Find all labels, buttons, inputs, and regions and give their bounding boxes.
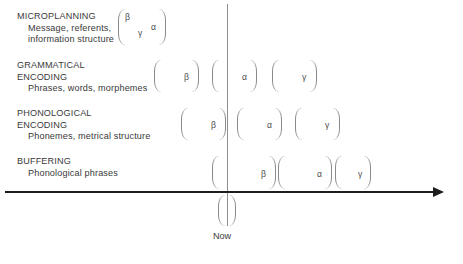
phonological-glyph-alpha: α [267, 121, 272, 130]
grammatical-glyph-alpha: α [242, 73, 247, 82]
stage-caption-microplanning: MICROPLANNING [17, 11, 114, 23]
buffering-glyph-alpha: α [317, 170, 322, 179]
time-axis [5, 191, 434, 193]
stage-detail-phonological-1: Phonemes, metrical structure [17, 131, 150, 143]
stage-label-grammatical-encoding: GRAMMATICAL ENCODING Phrases, words, mor… [17, 60, 148, 95]
stage-detail-buffering-1: Phonological phrases [17, 168, 118, 180]
time-axis-arrow-icon [433, 187, 444, 197]
buffering-glyph-gamma: γ [358, 170, 362, 179]
microplanning-glyph-beta: β [125, 13, 130, 22]
buffering-bracket-beta: β [212, 156, 276, 189]
microplanning-bracket-1: β γ α [118, 9, 166, 45]
stage-label-buffering: BUFFERING Phonological phrases [17, 156, 118, 179]
stage-detail-microplanning-2: information structure [17, 34, 114, 46]
stage-detail-grammatical-1: Phrases, words, morphemes [17, 83, 148, 95]
stage-caption-phonological-2: ENCODING [17, 120, 150, 132]
microplanning-glyph-alpha: α [151, 23, 156, 32]
now-label: Now [213, 231, 231, 241]
stage-label-phonological-encoding: PHONOLOGICAL ENCODING Phonemes, metrical… [17, 108, 150, 143]
grammatical-glyph-beta: β [184, 73, 189, 82]
stage-caption-phonological-1: PHONOLOGICAL [17, 108, 150, 120]
phonological-bracket-gamma: γ [295, 108, 340, 140]
stage-caption-buffering: BUFFERING [17, 156, 118, 168]
grammatical-bracket-alpha: α [212, 60, 257, 92]
stage-caption-grammatical-1: GRAMMATICAL [17, 60, 148, 72]
microplanning-glyph-gamma: γ [138, 29, 142, 38]
buffering-glyph-beta: β [261, 170, 266, 179]
stage-caption-grammatical-2: ENCODING [17, 72, 148, 84]
stage-detail-microplanning-1: Message, referents, [17, 23, 114, 35]
grammatical-glyph-gamma: γ [302, 73, 306, 82]
buffering-bracket-gamma: γ [335, 156, 371, 189]
stage-label-microplanning: MICROPLANNING Message, referents, inform… [17, 11, 114, 46]
phonological-glyph-beta: β [211, 121, 216, 130]
articulation-bracket [218, 195, 236, 226]
grammatical-bracket-gamma: γ [272, 60, 317, 92]
buffering-bracket-alpha: α [278, 156, 332, 189]
grammatical-bracket-beta: β [154, 60, 199, 92]
phonological-glyph-gamma: γ [325, 121, 329, 130]
phonological-bracket-alpha: α [237, 108, 282, 140]
phonological-bracket-beta: β [181, 108, 226, 140]
diagram-canvas: MICROPLANNING Message, referents, inform… [0, 0, 463, 264]
